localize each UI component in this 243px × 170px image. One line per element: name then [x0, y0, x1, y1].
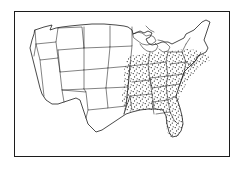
- us-map-drawing: [0, 0, 243, 170]
- state-boundaries-west: [34, 26, 132, 118]
- stippled-region: [110, 40, 220, 150]
- great-lakes: [133, 26, 170, 52]
- map-figure: United States map with stippled region: [0, 0, 243, 170]
